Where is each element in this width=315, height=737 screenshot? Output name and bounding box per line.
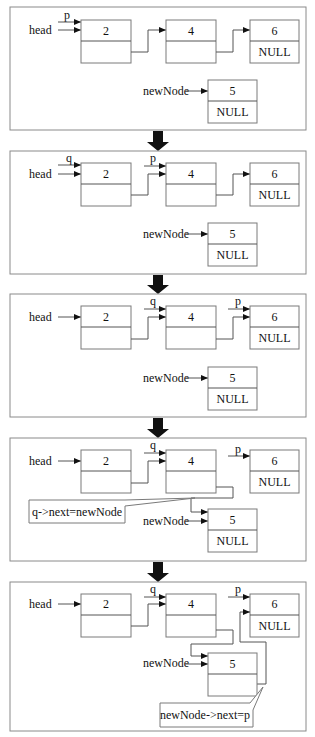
svg-text:5: 5 <box>230 371 236 385</box>
svg-text:NULL: NULL <box>217 392 249 406</box>
svg-text:5: 5 <box>230 657 236 671</box>
svg-text:4: 4 <box>188 167 194 181</box>
newnode-label: newNode <box>143 227 189 241</box>
svg-text:NULL: NULL <box>259 45 291 59</box>
svg-text:2: 2 <box>103 167 109 181</box>
newnode-label: newNode <box>143 371 189 385</box>
newnode-label: newNode <box>143 84 189 98</box>
step-arrow-down-icon <box>147 418 169 438</box>
svg-text:4: 4 <box>188 24 194 38</box>
linked-list-insertion-diagram: p head 2 4 6 NULL newNode <box>0 0 315 737</box>
head-label: head <box>29 454 52 468</box>
panel-step-2: q head 2 p 4 6 NULL newNode 5 N <box>10 151 306 274</box>
node-5: 5 NULL <box>208 367 257 410</box>
svg-text:NULL: NULL <box>259 619 291 633</box>
pointer-label-q: q <box>150 438 156 452</box>
pointer-label-p: p <box>235 294 241 308</box>
newnode-label: newNode <box>143 656 189 670</box>
pointer-label-p: p <box>150 151 156 165</box>
svg-text:6: 6 <box>272 167 278 181</box>
svg-text:6: 6 <box>272 310 278 324</box>
step-arrow-down-icon <box>147 131 169 151</box>
node-6: 6 NULL <box>250 594 299 637</box>
svg-text:6: 6 <box>272 24 278 38</box>
head-label: head <box>29 597 52 611</box>
node-2: 2 <box>81 594 131 637</box>
head-label: head <box>29 310 52 324</box>
panel-step-1: p head 2 4 6 NULL newNode <box>10 7 306 130</box>
pointer-label-p: p <box>235 442 241 456</box>
node-5: 5 NULL <box>208 80 257 123</box>
svg-text:6: 6 <box>272 454 278 468</box>
newnode-label: newNode <box>143 514 189 528</box>
svg-text:NULL: NULL <box>217 248 249 262</box>
node-6: 6 NULL <box>250 306 299 349</box>
svg-text:2: 2 <box>103 310 109 324</box>
svg-text:2: 2 <box>103 24 109 38</box>
svg-text:4: 4 <box>188 454 194 468</box>
node-5: 5 <box>208 653 257 696</box>
panel-step-4: head 2 q 4 p 6 NULL q->next=newNode <box>10 438 306 561</box>
node-5: 5 NULL <box>208 223 257 266</box>
svg-text:5: 5 <box>230 513 236 527</box>
node-2: 2 <box>81 306 131 349</box>
node-4: 4 <box>166 20 216 63</box>
node-4: 4 <box>166 163 216 206</box>
svg-text:q->next=newNode: q->next=newNode <box>32 505 122 519</box>
svg-text:NULL: NULL <box>259 188 291 202</box>
node-6: 6 NULL <box>250 450 299 493</box>
node-5: 5 NULL <box>208 509 257 552</box>
svg-text:5: 5 <box>230 84 236 98</box>
svg-text:newNode->next=p: newNode->next=p <box>160 708 250 722</box>
head-label: head <box>29 23 52 37</box>
node-6: 6 NULL <box>250 163 299 206</box>
pointer-label-p: p <box>64 8 70 22</box>
svg-text:NULL: NULL <box>259 331 291 345</box>
node-4: 4 <box>166 450 216 493</box>
svg-text:6: 6 <box>272 597 278 611</box>
node-6: 6 NULL <box>250 20 299 63</box>
svg-text:2: 2 <box>103 597 109 611</box>
svg-text:NULL: NULL <box>217 534 249 548</box>
step-arrow-down-icon <box>147 275 169 294</box>
svg-text:4: 4 <box>188 597 194 611</box>
node-4: 4 <box>166 594 216 637</box>
pointer-label-p: p <box>235 582 241 596</box>
svg-text:5: 5 <box>230 227 236 241</box>
head-label: head <box>29 167 52 181</box>
pointer-label-q: q <box>150 294 156 308</box>
svg-text:2: 2 <box>103 454 109 468</box>
node-4: 4 <box>166 306 216 349</box>
node-2: 2 <box>81 163 131 206</box>
svg-text:NULL: NULL <box>259 475 291 489</box>
svg-text:4: 4 <box>188 310 194 324</box>
pointer-label-q: q <box>66 151 72 165</box>
svg-text:NULL: NULL <box>217 105 249 119</box>
node-2: 2 <box>81 20 131 63</box>
pointer-label-q: q <box>150 582 156 596</box>
panel-step-3: head 2 q 4 p 6 NULL newNode 5 N <box>10 294 306 417</box>
panel-step-5: head 2 q 4 p 6 NULL newNode <box>10 582 306 731</box>
node-2: 2 <box>81 450 131 493</box>
step-arrow-down-icon <box>147 562 169 582</box>
